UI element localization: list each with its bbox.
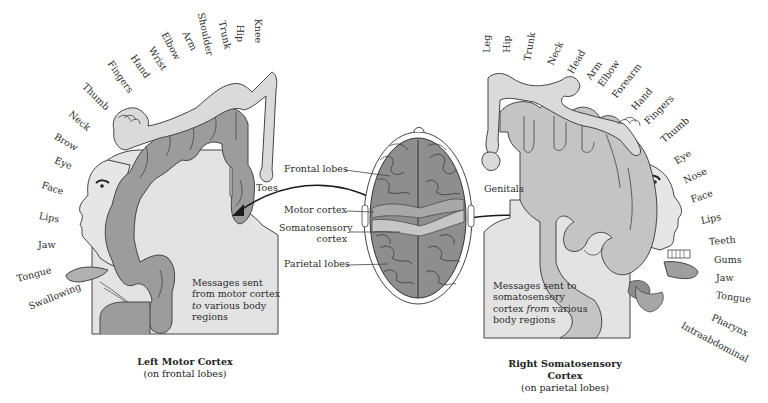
right-caption-subtitle: (on parietal lobes) [490,382,640,394]
right-message-italic: from [526,303,549,314]
callout-somatosensory-cortex: Somatosensory cortex [279,223,347,245]
label-hip: Hip [235,25,245,42]
label-jaw: Jaw [716,273,734,283]
callout-motor-cortex: Motor cortex [284,205,347,216]
left-message-line2: from motor cortex [192,288,280,299]
right-message-line2: somatosensory [493,291,565,302]
brain-top-view [345,128,474,305]
right-message-line3-post: various [549,303,587,314]
label-leg: Leg [482,35,492,53]
right-message-line3-pre: cortex [493,303,526,314]
label-knee: Knee [253,19,263,43]
label-toes: Toes [256,183,278,193]
left-caption: Left Motor Cortex (on frontal lobes) [120,356,250,380]
left-caption-title: Left Motor Cortex [120,356,250,368]
callout-somatosensory-line1: Somatosensory [279,222,353,233]
callout-frontal-lobes: Frontal lobes [284,164,348,175]
left-message-text: Messages sent from motor cortex to vario… [192,277,322,323]
label-genitals: Genitals [484,184,524,194]
left-message-line4: regions [192,311,228,322]
label-hip: Hip [502,35,512,52]
callout-somatosensory-line2: cortex [317,233,347,244]
right-caption-title: Right Somatosensory Cortex [490,358,640,382]
label-teeth: Teeth [709,235,737,247]
right-message-line4: body regions [493,314,555,325]
right-caption: Right Somatosensory Cortex (on parietal … [490,358,640,394]
left-caption-subtitle: (on frontal lobes) [120,368,250,380]
callout-parietal-lobes: Parietal lobes [284,259,350,270]
right-message-line1: Messages sent to [493,280,576,291]
left-message-line3: various body [202,300,267,311]
right-message-text: Messages sent to somatosensory cortex fr… [493,280,623,326]
label-gums: Gums [714,255,742,265]
left-message-line1: Messages sent [192,277,263,288]
brain-homunculus-figure: Knee Hip Trunk Shoulder Arm Elbow Wrist … [0,0,768,403]
label-jaw: Jaw [38,240,56,250]
left-message-italic: to [192,300,202,311]
